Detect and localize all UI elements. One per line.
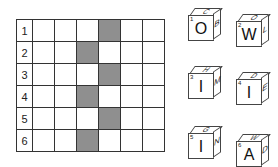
die-front-letter: I bbox=[189, 138, 213, 156]
row-label: 1 bbox=[17, 20, 33, 42]
grid-cell bbox=[55, 130, 77, 152]
grid-cell bbox=[99, 130, 121, 152]
grid-cell-shaded bbox=[99, 108, 121, 130]
grid-cell bbox=[143, 108, 165, 130]
die-side-face: D bbox=[261, 134, 269, 166]
grid-row-6: 6 bbox=[17, 130, 165, 152]
grid-cell-shaded bbox=[77, 42, 99, 64]
die-front-letter: I bbox=[189, 78, 213, 96]
die-front-face: 4 I bbox=[236, 79, 262, 105]
die-5: G 5 I N bbox=[188, 126, 222, 160]
grid-cell bbox=[77, 108, 99, 130]
die-side-face: E bbox=[261, 72, 269, 104]
die-front-face: 6 A bbox=[236, 141, 262, 167]
grid-cell bbox=[121, 108, 143, 130]
grid-cell bbox=[33, 42, 55, 64]
grid-cell bbox=[55, 42, 77, 64]
grid-cell bbox=[143, 64, 165, 86]
row-label: 5 bbox=[17, 108, 33, 130]
die-front-letter: I bbox=[237, 84, 261, 102]
grid-cell bbox=[77, 64, 99, 86]
grid-row-3: 3 bbox=[17, 64, 165, 86]
die-side-face: N bbox=[213, 126, 221, 158]
grid-cell-shaded bbox=[99, 64, 121, 86]
grid-cell bbox=[143, 86, 165, 108]
grid-cell bbox=[55, 108, 77, 130]
grid-cell bbox=[55, 86, 77, 108]
die-front-face: 3 I bbox=[188, 73, 214, 99]
grid-cell bbox=[99, 42, 121, 64]
row-label: 2 bbox=[17, 42, 33, 64]
puzzle-grid: 1 2 3 4 bbox=[16, 19, 165, 152]
grid-cell bbox=[33, 86, 55, 108]
grid-cell bbox=[77, 20, 99, 42]
grid-row-2: 2 bbox=[17, 42, 165, 64]
grid-cell bbox=[143, 130, 165, 152]
grid-cell bbox=[121, 86, 143, 108]
die-3: H 3 I M bbox=[188, 66, 222, 100]
die-front-face: 2 W bbox=[236, 21, 262, 47]
grid-cell bbox=[143, 20, 165, 42]
grid-cell bbox=[121, 64, 143, 86]
row-label: 3 bbox=[17, 64, 33, 86]
die-1: C 1 O B bbox=[188, 8, 222, 42]
grid-cell bbox=[55, 20, 77, 42]
grid-cell bbox=[55, 64, 77, 86]
die-front-letter: A bbox=[237, 146, 261, 164]
die-side-face: B bbox=[213, 8, 221, 40]
grid-cell bbox=[121, 130, 143, 152]
die-2: O 2 W L bbox=[236, 14, 270, 48]
die-4: D 4 I E bbox=[236, 72, 270, 106]
grid-cell bbox=[143, 42, 165, 64]
grid-cell bbox=[33, 108, 55, 130]
die-front-face: 5 I bbox=[188, 133, 214, 159]
grid-cell bbox=[99, 86, 121, 108]
row-label: 6 bbox=[17, 130, 33, 152]
die-side-face: M bbox=[213, 66, 221, 98]
grid-cell bbox=[121, 20, 143, 42]
die-side-face: L bbox=[261, 14, 269, 46]
row-label: 4 bbox=[17, 86, 33, 108]
grid-row-1: 1 bbox=[17, 20, 165, 42]
grid-cell-shaded bbox=[77, 86, 99, 108]
grid-cell bbox=[33, 20, 55, 42]
grid-cell-shaded bbox=[99, 20, 121, 42]
die-front-letter: O bbox=[189, 20, 213, 38]
grid-row-5: 5 bbox=[17, 108, 165, 130]
die-front-letter: W bbox=[237, 26, 261, 44]
grid-cell bbox=[121, 42, 143, 64]
die-front-face: 1 O bbox=[188, 15, 214, 41]
grid-cell-shaded bbox=[77, 130, 99, 152]
grid-cell bbox=[33, 130, 55, 152]
grid-cell bbox=[33, 64, 55, 86]
die-6: W 6 A D bbox=[236, 134, 270, 167]
grid-row-4: 4 bbox=[17, 86, 165, 108]
